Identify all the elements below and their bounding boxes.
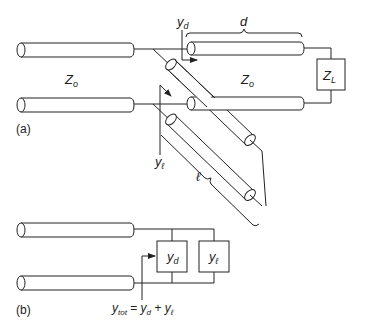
label-yd: yd [176,14,190,31]
coax-left-top [17,43,134,57]
label-d: d [240,14,248,29]
arrow-yl [160,85,171,96]
panel-b-label: (b) [16,303,31,317]
equation-ytot: ytot = yd + yℓ [111,301,174,317]
wire-load-bottom [304,90,331,103]
distance-brace [186,29,302,37]
label-zo-right: Zo [240,72,254,89]
label-zo-left: Zo [64,72,78,89]
coax-left-bottom [17,98,134,112]
label-l: ℓ [196,169,201,184]
stub-coax-lower [153,104,262,206]
panel-a-label: (a) [16,122,31,136]
coax-b-bottom [17,276,134,290]
stub-matching-diagram: Zo Zo ZL d yd yℓ ℓ (a) yd yℓ (b) ytot = … [0,0,365,332]
coax-right-top [187,42,304,55]
stub-short [262,151,266,206]
coax-b-top [17,223,134,237]
label-yl: yℓ [154,154,165,171]
arrow-ytot [142,256,155,300]
wire-load-top [304,48,331,59]
